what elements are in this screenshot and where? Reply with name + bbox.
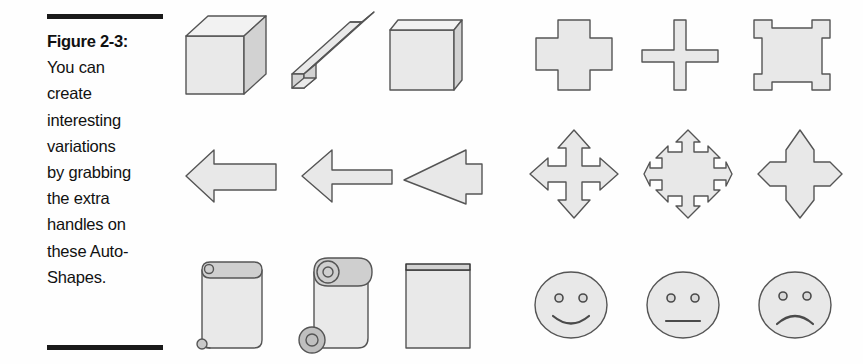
eye-right-icon	[803, 292, 811, 300]
eye-left-icon	[779, 292, 787, 300]
caption-rule-bottom	[47, 345, 163, 350]
eye-left-icon	[555, 294, 563, 302]
caption-line-2: create	[47, 84, 92, 102]
figure-caption-block: Figure 2-3: You can create interesting v…	[47, 14, 165, 350]
shape-scroll-vertical-flat	[400, 258, 478, 354]
caption-line-3: interesting	[47, 111, 121, 129]
caption-line-9: Shapes.	[47, 268, 106, 286]
figure-page: Figure 2-3: You can create interesting v…	[0, 0, 863, 364]
shape-cross-thin	[640, 18, 720, 94]
shape-smiley-face-happy	[532, 266, 610, 344]
caption-line-1: You can	[47, 58, 105, 76]
figure-label: Figure 2-3:	[47, 32, 128, 50]
shape-scroll-vertical-small-curl	[192, 256, 270, 356]
caption-line-5: by grabbing	[47, 163, 131, 181]
shape-cross-inverted	[752, 18, 832, 94]
shape-smiley-face-neutral	[644, 266, 722, 344]
shape-cross-thick	[534, 18, 614, 94]
shape-bevel-bar	[288, 16, 376, 98]
caption-rule-top	[47, 14, 163, 19]
shape-left-arrow-sharp	[402, 148, 486, 206]
caption-line-4: variations	[47, 137, 116, 155]
shape-left-arrow-thin	[300, 148, 396, 206]
caption-line-6: the extra	[47, 189, 109, 207]
shape-flat-cube	[388, 16, 472, 96]
caption-line-8: these Auto-	[47, 242, 128, 260]
shape-four-way-arrow	[528, 128, 620, 220]
eye-left-icon	[667, 294, 675, 302]
shape-scroll-vertical-large-curl	[296, 252, 378, 360]
shape-four-way-arrow-stubby	[642, 128, 734, 220]
shape-left-arrow-wide	[184, 148, 280, 206]
caption-line-7: handles on	[47, 215, 126, 233]
shape-smiley-face-sad	[756, 266, 834, 344]
caption-text: Figure 2-3: You can create interesting v…	[47, 28, 167, 290]
shape-cube	[182, 12, 274, 100]
eye-right-icon	[579, 294, 587, 302]
shape-four-way-arrow-pointed	[756, 128, 844, 220]
eye-right-icon	[691, 294, 699, 302]
